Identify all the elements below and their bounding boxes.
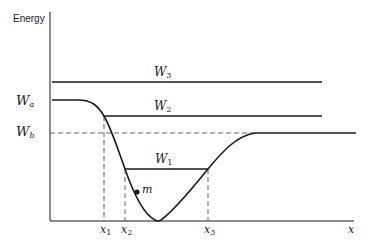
- w1-label: W1: [155, 153, 172, 167]
- particle-m-label: m: [142, 184, 152, 195]
- potential-curve: [52, 100, 356, 221]
- energy-diagram: Energy x Wa Wb W3 W2 W1 m x1 x2 x3: [0, 0, 371, 245]
- w3-label: W3: [154, 66, 171, 80]
- x3-label: x3: [204, 224, 215, 237]
- wa-label: Wa: [16, 94, 34, 109]
- particle-m-dot: [134, 189, 139, 194]
- x-axis-label: x: [348, 224, 354, 235]
- x2-label: x2: [121, 224, 132, 237]
- wb-label: Wb: [16, 125, 35, 140]
- y-axis-label: Energy: [13, 14, 45, 24]
- energy-diagram-svg: [0, 0, 371, 245]
- x1-label: x1: [100, 224, 111, 237]
- w2-label: W2: [154, 100, 171, 114]
